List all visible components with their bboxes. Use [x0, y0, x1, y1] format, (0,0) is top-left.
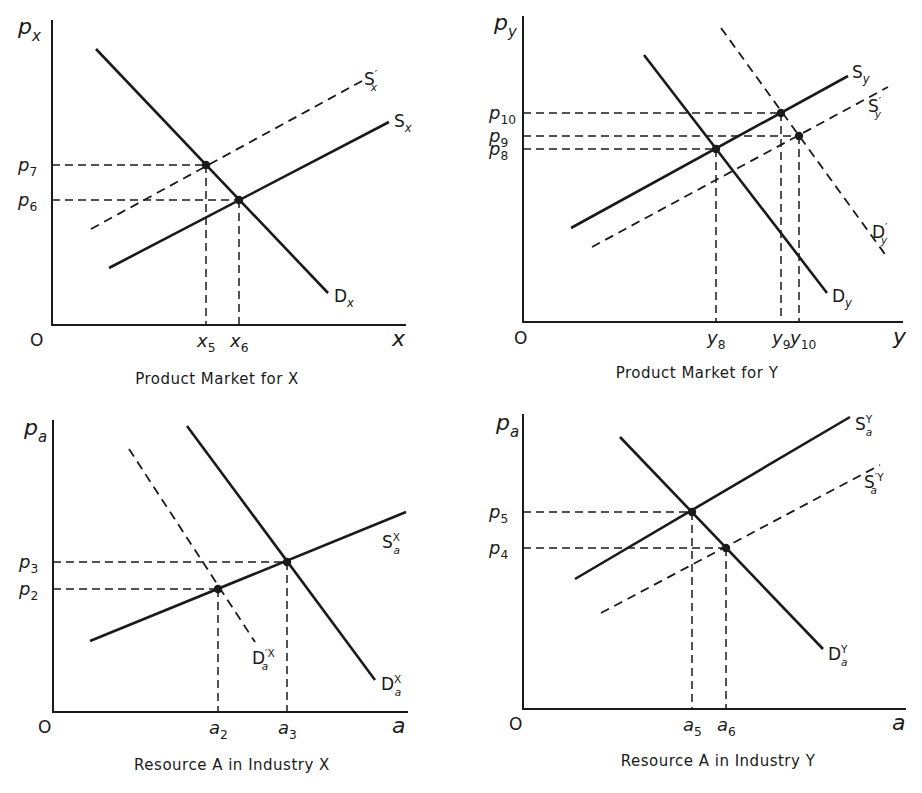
- price-label-p4-a6: p4: [488, 537, 508, 562]
- demand-y-label: Dy: [832, 286, 852, 310]
- supply-x-shifted-label: S′x: [364, 68, 378, 94]
- origin-label: O: [30, 330, 43, 350]
- quantity-label-p5-a5: a5: [683, 714, 702, 739]
- axes: [52, 20, 406, 325]
- supply-a-x-curve: [90, 512, 406, 641]
- quantity-label-p7-x5: x5: [196, 330, 215, 355]
- origin-label: O: [509, 714, 522, 734]
- x-axis-label: x: [391, 326, 406, 351]
- equilibrium-point-p5-a5: [688, 508, 696, 516]
- price-label-p5-a5: p5: [488, 501, 508, 526]
- equilibrium-point-p8-y8: [712, 145, 720, 153]
- price-label-p6-x6: p6: [17, 189, 37, 214]
- panel-caption: Resource A in Industry Y: [621, 752, 816, 770]
- x-axis-label: a: [392, 713, 405, 738]
- equilibrium-point-p10-y9: [777, 109, 785, 117]
- demand-x-label: Dx: [334, 286, 354, 310]
- supply-y-label: Sy: [852, 62, 870, 86]
- supply-x-label: Sx: [394, 111, 412, 135]
- quantity-label-p8-y8: y8: [706, 327, 725, 352]
- panel-resource-a-industry-x: DXaSXaD′Xap3a3p2a2paaOResource A in Indu…: [18, 415, 408, 774]
- panel-product-market-y: DySyS′yD′yp10y9p9y10p8y8pyyOProduct Mark…: [488, 10, 907, 382]
- price-label-p3-a3: p3: [18, 551, 38, 576]
- equilibrium-point-p3-a3: [283, 558, 291, 566]
- origin-label: O: [38, 717, 51, 737]
- quantity-label-p9-y10: y10: [789, 327, 816, 352]
- panel-caption: Resource A in Industry X: [134, 756, 330, 774]
- demand-a-x-shifted-curve: [129, 449, 255, 642]
- y-axis-label: py: [493, 10, 518, 41]
- supply-y-shifted-label: S′y: [868, 95, 882, 121]
- equilibrium-point-p9-y10: [795, 132, 803, 140]
- supply-a-y-shifted-label: S′Ya: [864, 471, 884, 497]
- panel-resource-a-industry-y: DYaSYaS′Yap5a5p4a6paaOResource A in Indu…: [488, 410, 906, 770]
- supply-demand-figure: DxSxS′xp7x5p6x6pxxOProduct Market for X …: [0, 0, 922, 793]
- price-label-p2-a2: p2: [18, 578, 38, 603]
- equilibrium-point-p7-x5: [202, 161, 210, 169]
- price-label-p10-y9: p10: [488, 102, 516, 127]
- supply-y-shifted-curve: [592, 87, 888, 247]
- quantity-label-p2-a2: a2: [209, 717, 228, 742]
- panel-product-market-x: DxSxS′xp7x5p6x6pxxOProduct Market for X: [17, 14, 412, 388]
- equilibrium-point-p2-a2: [214, 585, 222, 593]
- quantity-label-p3-a3: a3: [278, 717, 297, 742]
- supply-a-y-label: SYa: [855, 413, 873, 439]
- panel-caption: Product Market for Y: [616, 364, 779, 382]
- panel-caption: Product Market for X: [135, 370, 299, 388]
- supply-x-curve: [109, 122, 389, 268]
- price-label-p7-x5: p7: [17, 154, 37, 179]
- demand-y-shifted-label: D′y: [872, 221, 888, 247]
- y-axis-label: pa: [495, 410, 519, 441]
- demand-a-x-shifted-label: D′Xa: [252, 647, 275, 673]
- equilibrium-point-p6-x6: [235, 196, 243, 204]
- demand-a-x-label: DXa: [381, 673, 401, 699]
- axes: [523, 414, 906, 709]
- supply-a-x-label: SXa: [382, 531, 400, 557]
- x-axis-label: a: [892, 710, 905, 735]
- x-axis-label: y: [892, 324, 907, 349]
- axes: [53, 420, 408, 712]
- origin-label: O: [514, 328, 527, 348]
- axes: [523, 16, 903, 322]
- quantity-label-p4-a6: a6: [717, 714, 736, 739]
- y-axis-label: pa: [23, 415, 47, 446]
- equilibrium-point-p4-a6: [722, 544, 730, 552]
- demand-a-y-curve: [620, 437, 823, 649]
- quantity-label-p6-x6: x6: [229, 330, 249, 355]
- y-axis-label: px: [17, 14, 41, 45]
- demand-a-x-curve: [187, 426, 375, 680]
- quantity-label-p10-y9: y9: [771, 327, 790, 352]
- demand-a-y-label: DYa: [828, 643, 848, 669]
- supply-y-curve: [571, 76, 848, 228]
